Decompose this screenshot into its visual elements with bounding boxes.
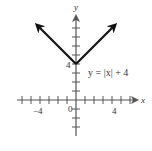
curve-left-branch [37,25,76,64]
x-tick-label-neg4: −4 [33,106,43,116]
x-tick-label-4: 4 [112,106,117,116]
y-axis-label: y [73,2,78,12]
y-tick-label-4: 4 [66,60,71,70]
origin-label: 0 [68,104,73,114]
x-axis-label: x [140,95,145,105]
equation-label: y = |x| + 4 [88,67,128,78]
curve-right-branch [76,25,115,64]
graph: y x 4 −4 0 4 y = |x| + 4 [0,0,152,151]
